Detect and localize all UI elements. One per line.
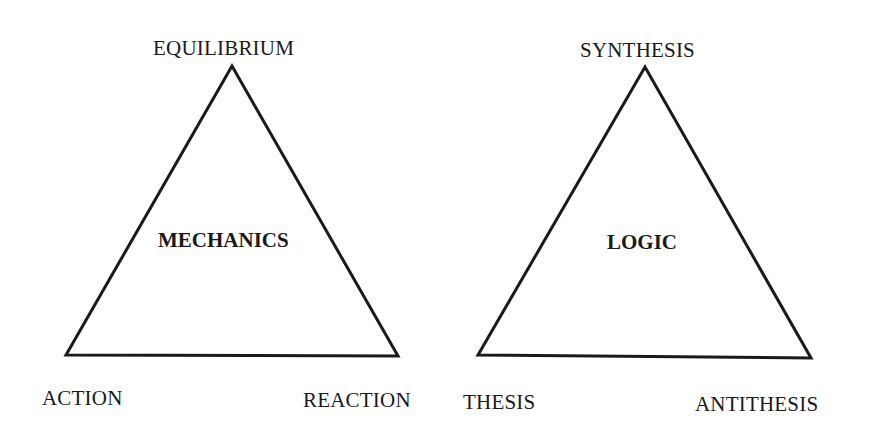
logic-center-label: LOGIC bbox=[607, 230, 677, 255]
triangles-svg bbox=[0, 0, 882, 438]
logic-left-label: THESIS bbox=[463, 390, 535, 415]
mechanics-apex-label: EQUILIBRIUM bbox=[153, 36, 294, 61]
mechanics-right-label: REACTION bbox=[303, 388, 411, 413]
mechanics-center-label: MECHANICS bbox=[158, 228, 289, 253]
logic-right-label: ANTITHESIS bbox=[695, 392, 818, 417]
mechanics-triangle bbox=[66, 66, 398, 356]
mechanics-left-label: ACTION bbox=[42, 386, 123, 411]
logic-apex-label: SYNTHESIS bbox=[580, 38, 695, 63]
logic-triangle bbox=[478, 67, 811, 358]
